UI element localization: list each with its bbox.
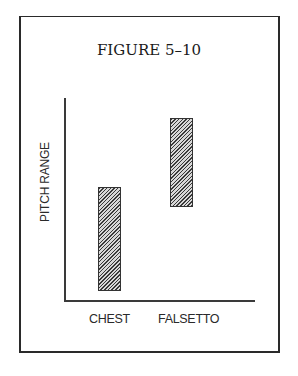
x-label-chest: CHEST <box>89 312 130 326</box>
figure-frame <box>19 16 280 353</box>
bar-chest-range <box>98 187 121 291</box>
figure-title: FIGURE 5–10 <box>0 41 298 59</box>
y-axis-line <box>64 98 66 301</box>
x-label-falsetto: FALSETTO <box>158 312 219 326</box>
y-axis-label: PITCH RANGE <box>38 142 52 222</box>
x-axis-line <box>64 300 255 302</box>
bar-falsetto-range <box>170 118 193 207</box>
